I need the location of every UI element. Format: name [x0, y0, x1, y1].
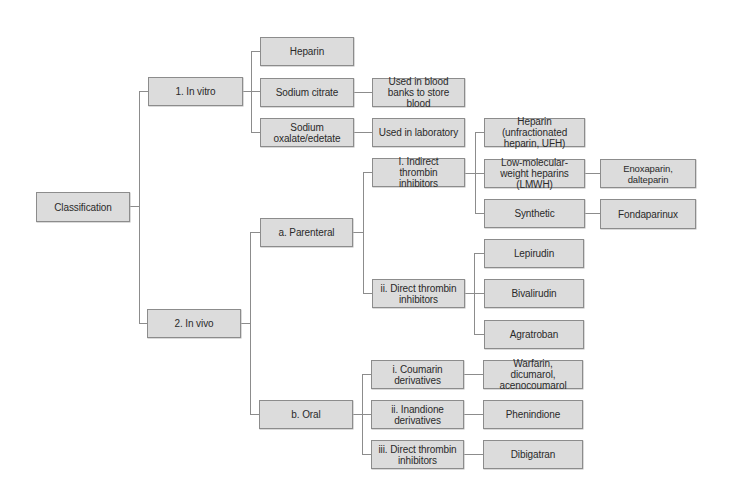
node-synthetic: Synthetic	[484, 199, 585, 228]
node-sodium-oxalate: Sodium oxalate/edetate	[260, 118, 354, 147]
connector	[250, 232, 251, 415]
connector	[475, 132, 476, 214]
node-oral-direct-thrombin-inhibitors: iii. Direct thrombin inhibitors	[371, 440, 464, 469]
node-phenindione: Phenindione	[483, 400, 583, 429]
connector	[464, 374, 483, 375]
node-enoxaparin-dalteparin: Enoxaparin, dalteparin	[600, 159, 696, 188]
node-lmwh: Low-molecular-weight heparins (LMWH)	[484, 159, 585, 188]
connector	[585, 173, 600, 174]
connector	[353, 232, 363, 233]
node-coumarin-derivatives: i. Coumarin derivatives	[371, 360, 464, 389]
node-agratroban: Agratroban	[484, 320, 584, 349]
connector	[474, 253, 484, 254]
connector	[363, 172, 364, 294]
node-indirect-thrombin-inhibitors: I. Indirect thrombin inhibitors	[372, 158, 465, 187]
node-dibigatran: Dibigatran	[483, 440, 583, 469]
connector	[362, 454, 371, 455]
node-parenteral: a. Parenteral	[260, 218, 353, 247]
node-bivalirudin: Bivalirudin	[484, 279, 584, 308]
connector	[251, 51, 252, 133]
connector	[250, 414, 259, 415]
node-in-vivo: 2. In vivo	[147, 309, 241, 338]
node-warfarin-dicumarol-acenocoumarol: Warfarin, dicumarol, acenocoumarol	[483, 360, 583, 389]
connector	[139, 323, 147, 324]
connector	[354, 132, 372, 133]
connector	[250, 232, 260, 233]
node-direct-thrombin-inhibitors: ii. Direct thrombin inhibitors	[372, 279, 465, 308]
node-classification: Classification	[36, 192, 130, 222]
node-sodium-citrate: Sodium citrate	[260, 78, 354, 107]
node-oral: b. Oral	[259, 400, 353, 429]
node-in-vitro: 1. In vitro	[148, 77, 243, 106]
connector	[354, 92, 372, 93]
node-laboratory-use: Used in laboratory	[372, 118, 465, 147]
connector	[585, 213, 600, 214]
node-lepirudin: Lepirudin	[484, 239, 584, 268]
connector	[363, 293, 372, 294]
classification-diagram: Classification 1. In vitro 2. In vivo He…	[0, 0, 730, 497]
connector	[475, 132, 484, 133]
node-inandione-derivatives: ii. Inandione derivatives	[371, 400, 464, 429]
connector	[475, 213, 484, 214]
connector	[129, 206, 139, 207]
connector	[251, 51, 260, 52]
connector	[362, 374, 363, 455]
connector	[139, 91, 148, 92]
connector	[363, 172, 372, 173]
connector	[362, 374, 371, 375]
connector	[464, 414, 483, 415]
node-blood-bank-use: Used in blood banks to store blood	[372, 78, 465, 107]
connector	[474, 334, 484, 335]
connector	[241, 323, 250, 324]
connector	[139, 91, 140, 324]
connector	[474, 253, 475, 335]
connector	[464, 454, 483, 455]
node-fondaparinux: Fondaparinux	[600, 199, 696, 229]
node-heparin: Heparin	[260, 37, 354, 66]
connector	[251, 132, 260, 133]
node-ufh: Heparin (unfractionated heparin, UFH)	[484, 118, 585, 147]
